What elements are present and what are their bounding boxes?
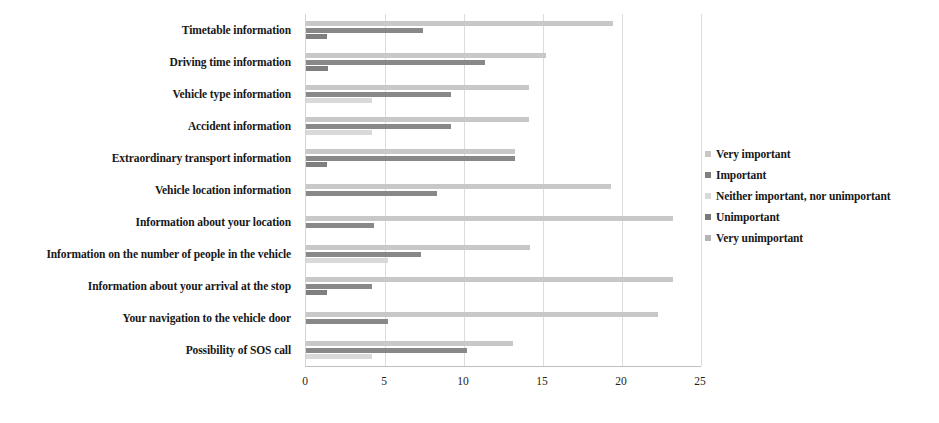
chart-legend: Very importantImportantNeither important… bbox=[705, 148, 937, 244]
bar-group bbox=[306, 46, 701, 78]
bar bbox=[306, 85, 529, 90]
legend-swatch-icon bbox=[705, 172, 711, 178]
legend-label: Important bbox=[716, 169, 766, 181]
category-axis: Timetable informationDriving time inform… bbox=[0, 14, 298, 366]
bar bbox=[306, 184, 611, 189]
plot-area bbox=[305, 14, 701, 367]
legend-item[interactable]: Important bbox=[705, 169, 937, 181]
legend-swatch-icon bbox=[705, 214, 711, 220]
x-tick-label: 5 bbox=[381, 375, 387, 387]
bar bbox=[306, 130, 372, 135]
legend-swatch-icon bbox=[705, 151, 711, 157]
bar-group bbox=[306, 334, 701, 366]
legend-label: Unimportant bbox=[716, 211, 779, 223]
bar-group bbox=[306, 206, 701, 238]
category-label: Your navigation to the vehicle door bbox=[0, 302, 298, 334]
bar bbox=[306, 53, 546, 58]
x-axis: 0510152025 bbox=[305, 367, 700, 393]
bar bbox=[306, 258, 388, 263]
bar bbox=[306, 28, 423, 33]
bar bbox=[306, 348, 467, 353]
category-label: Extraordinary transport information bbox=[0, 142, 298, 174]
legend-item[interactable]: Neither important, nor unimportant bbox=[705, 190, 937, 202]
bar bbox=[306, 319, 388, 324]
bar-group bbox=[306, 270, 701, 302]
category-label: Vehicle type information bbox=[0, 78, 298, 110]
x-tick-label: 15 bbox=[536, 375, 548, 387]
bar bbox=[306, 354, 372, 359]
bar bbox=[306, 149, 515, 154]
x-tick-label: 0 bbox=[302, 375, 308, 387]
bar bbox=[306, 117, 529, 122]
category-label: Vehicle location information bbox=[0, 174, 298, 206]
bar bbox=[306, 98, 372, 103]
bar-group bbox=[306, 142, 701, 174]
category-label: Information about your arrival at the st… bbox=[0, 270, 298, 302]
legend-label: Very important bbox=[716, 148, 791, 160]
bar bbox=[306, 284, 372, 289]
bar bbox=[306, 124, 451, 129]
x-tick-label: 25 bbox=[694, 375, 706, 387]
bar bbox=[306, 34, 327, 39]
bar-chart: Timetable informationDriving time inform… bbox=[0, 0, 939, 423]
category-label: Information about your location bbox=[0, 206, 298, 238]
legend-label: Very unimportant bbox=[716, 232, 803, 244]
bar bbox=[306, 66, 328, 71]
category-label: Accident information bbox=[0, 110, 298, 142]
bar bbox=[306, 162, 327, 167]
legend-label: Neither important, nor unimportant bbox=[716, 190, 890, 202]
bar bbox=[306, 191, 437, 196]
bar-group bbox=[306, 302, 701, 334]
category-label: Timetable information bbox=[0, 14, 298, 46]
bar-group bbox=[306, 238, 701, 270]
category-label: Information on the number of people in t… bbox=[0, 238, 298, 270]
bar-group bbox=[306, 14, 701, 46]
bar bbox=[306, 312, 658, 317]
legend-item[interactable]: Very important bbox=[705, 148, 937, 160]
legend-swatch-icon bbox=[705, 193, 711, 199]
bar bbox=[306, 223, 374, 228]
bar bbox=[306, 277, 673, 282]
bar bbox=[306, 245, 530, 250]
bar bbox=[306, 156, 515, 161]
legend-item[interactable]: Unimportant bbox=[705, 211, 937, 223]
bar bbox=[306, 21, 613, 26]
bar bbox=[306, 341, 513, 346]
bar bbox=[306, 252, 421, 257]
bar bbox=[306, 290, 327, 295]
category-label: Driving time information bbox=[0, 46, 298, 78]
bar bbox=[306, 92, 451, 97]
bar-group bbox=[306, 110, 701, 142]
category-label: Possibility of SOS call bbox=[0, 334, 298, 366]
bar-group bbox=[306, 78, 701, 110]
legend-swatch-icon bbox=[705, 235, 711, 241]
bar bbox=[306, 216, 673, 221]
bar bbox=[306, 60, 485, 65]
x-tick-label: 10 bbox=[457, 375, 469, 387]
bar-groups bbox=[306, 14, 701, 366]
x-tick-label: 20 bbox=[615, 375, 627, 387]
bar-group bbox=[306, 174, 701, 206]
gridline bbox=[701, 14, 702, 366]
legend-item[interactable]: Very unimportant bbox=[705, 232, 937, 244]
